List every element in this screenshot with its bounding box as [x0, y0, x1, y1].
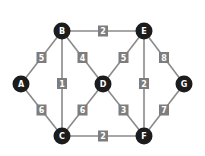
edge-weight-e-f: 2 [139, 78, 149, 89]
svg-text:D: D [100, 80, 107, 89]
edge-weight-d-f: 3 [119, 105, 129, 116]
edge-weight-e-g: 8 [159, 52, 169, 63]
node-c: C [54, 128, 71, 145]
svg-text:F: F [141, 132, 146, 141]
edge-weight-b-c: 1 [57, 78, 67, 89]
nodes-layer: ABCDEFG [13, 23, 193, 145]
svg-text:3: 3 [121, 106, 127, 115]
node-a: A [13, 76, 30, 93]
edge-weight-f-g: 7 [159, 105, 169, 116]
svg-text:8: 8 [161, 54, 167, 63]
weighted-graph: 561426253287 ABCDEFG [0, 0, 205, 156]
node-e: E [136, 23, 153, 40]
svg-text:G: G [181, 80, 188, 89]
edge-weight-a-c: 6 [37, 105, 47, 116]
svg-text:6: 6 [39, 106, 45, 115]
edge-weight-a-b: 5 [37, 52, 47, 63]
edge-weight-b-d: 4 [78, 52, 88, 63]
node-b: B [54, 23, 71, 40]
node-g: G [176, 76, 193, 93]
svg-text:2: 2 [100, 132, 106, 141]
edge-weight-b-e: 2 [98, 26, 108, 37]
svg-text:2: 2 [100, 27, 106, 36]
svg-text:B: B [59, 27, 65, 36]
svg-text:E: E [141, 27, 146, 36]
edge-weight-c-f: 2 [98, 131, 108, 142]
svg-text:5: 5 [121, 54, 127, 63]
edge-weight-c-d: 6 [78, 105, 88, 116]
svg-text:1: 1 [59, 80, 65, 89]
edge-weight-d-e: 5 [119, 52, 129, 63]
node-f: F [136, 128, 153, 145]
svg-text:A: A [18, 80, 25, 89]
svg-text:4: 4 [80, 54, 86, 63]
svg-text:2: 2 [141, 80, 147, 89]
svg-text:C: C [59, 132, 65, 141]
svg-text:7: 7 [161, 106, 167, 115]
svg-text:5: 5 [39, 54, 45, 63]
node-d: D [95, 76, 112, 93]
svg-text:6: 6 [80, 106, 86, 115]
